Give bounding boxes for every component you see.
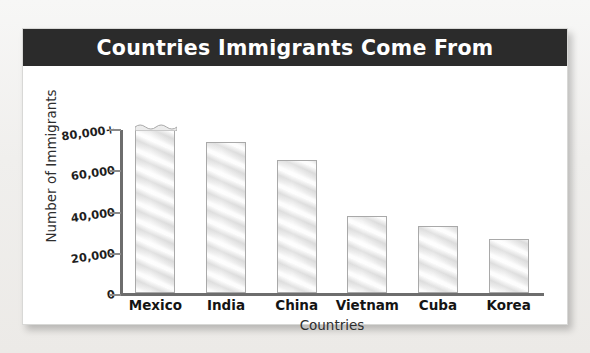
y-axis-tick-mark xyxy=(109,212,121,214)
bar-india xyxy=(206,142,246,293)
bar-cuba xyxy=(418,226,458,293)
y-axis-tick-mark xyxy=(109,294,121,296)
chart-title-band: Countries Immigrants Come From xyxy=(23,29,567,66)
y-axis-tick-label: 80,000+ xyxy=(41,122,116,146)
y-axis-tick-label: 60,000 xyxy=(41,163,116,187)
x-axis-label-mexico: Mexico xyxy=(120,297,191,313)
x-axis-label-korea: Korea xyxy=(473,297,544,313)
bar-series xyxy=(120,66,544,295)
y-axis-tick-label: 40,000 xyxy=(41,205,116,229)
x-axis-label-china: China xyxy=(261,297,332,313)
y-axis-tick-labels: 020,00040,00060,00080,000+ xyxy=(37,66,115,326)
y-axis-tick-label: 0 xyxy=(41,287,116,311)
x-axis-tick-labels: MexicoIndiaChinaVietnamCubaKorea xyxy=(120,297,544,317)
broken-axis-scallop-icon xyxy=(135,123,175,130)
y-axis-tick-label: 20,000 xyxy=(41,246,116,270)
x-axis-label-vietnam: Vietnam xyxy=(332,297,403,313)
x-axis-label-cuba: Cuba xyxy=(403,297,474,313)
plot-area: Number of Immigrants 020,00040,00060,000… xyxy=(23,66,567,326)
y-axis-tick-mark xyxy=(109,129,121,131)
bar-china xyxy=(277,160,317,293)
page-background: Countries Immigrants Come From Number of… xyxy=(0,0,590,353)
y-axis-tick-mark xyxy=(109,253,121,255)
bar-korea xyxy=(489,239,529,293)
x-axis-title: Countries xyxy=(120,317,544,333)
chart-card: Countries Immigrants Come From Number of… xyxy=(22,28,568,325)
bar-mexico xyxy=(135,128,175,293)
page-title: Countries Immigrants Come From xyxy=(97,36,494,60)
y-axis-tick-mark xyxy=(109,170,121,172)
bar-vietnam xyxy=(347,216,387,293)
x-axis-label-india: India xyxy=(191,297,262,313)
